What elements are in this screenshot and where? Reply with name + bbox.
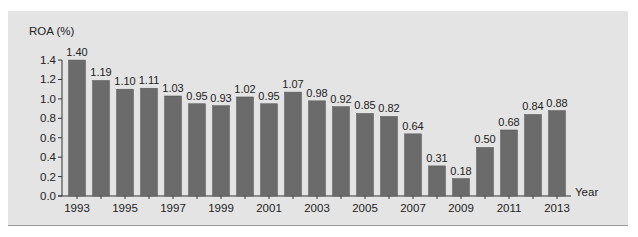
bar-value-label: 0.92	[330, 93, 351, 105]
bar-2008	[429, 166, 446, 196]
y-tick-label: 0.6	[40, 132, 56, 144]
bar-2006	[381, 116, 398, 196]
bar-value-label: 1.10	[114, 75, 135, 87]
bar-value-label: 0.95	[258, 90, 279, 102]
bar-2001	[261, 104, 278, 196]
roa-bar-chart: 0.00.20.40.60.81.01.21.41.401.191.101.11…	[0, 0, 638, 237]
x-tick-label: 1997	[160, 202, 186, 214]
bar-1999	[213, 106, 230, 196]
y-tick-label: 1.0	[40, 93, 56, 105]
bar-value-label: 0.95	[186, 90, 207, 102]
y-tick-label: 0.8	[40, 112, 56, 124]
bar-value-label: 1.02	[234, 83, 255, 95]
bar-2010	[477, 147, 494, 196]
x-tick-label: 2009	[448, 202, 474, 214]
bar-1996	[141, 88, 158, 196]
x-tick-label: 2013	[544, 202, 570, 214]
bar-1998	[189, 104, 206, 196]
bar-2007	[405, 134, 422, 196]
y-tick-label: 1.2	[40, 73, 56, 85]
bar-value-label: 0.31	[426, 152, 447, 164]
bar-2005	[357, 113, 374, 196]
bar-value-label: 1.11	[139, 74, 160, 86]
y-tick-label: 0.4	[40, 151, 57, 163]
bar-2000	[237, 97, 254, 196]
x-tick-label: 2005	[352, 202, 378, 214]
bar-value-label: 1.07	[282, 78, 303, 90]
bar-value-label: 0.50	[474, 133, 495, 145]
bar-value-label: 1.03	[162, 82, 183, 94]
bar-value-label: 0.82	[378, 102, 399, 114]
bar-value-label: 0.68	[498, 116, 519, 128]
bar-value-label: 0.98	[306, 87, 327, 99]
chart-plot-area: 0.00.20.40.60.81.01.21.41.401.191.101.11…	[0, 0, 638, 237]
x-tick-label: 1993	[64, 202, 90, 214]
bar-value-label: 0.93	[210, 92, 231, 104]
x-tick-label: 2007	[400, 202, 426, 214]
bar-1995	[117, 89, 134, 196]
bar-2012	[525, 114, 542, 196]
bar-1993	[69, 60, 86, 196]
bar-2013	[549, 111, 566, 196]
bar-1997	[165, 96, 182, 196]
y-axis-label: ROA (%)	[29, 25, 74, 37]
y-tick-label: 0.0	[40, 190, 56, 202]
bar-value-label: 0.18	[450, 165, 471, 177]
x-tick-label: 1995	[112, 202, 138, 214]
bar-2004	[333, 107, 350, 196]
bar-2003	[309, 101, 326, 196]
bar-1994	[93, 80, 110, 196]
x-tick-label: 1999	[208, 202, 234, 214]
bar-value-label: 0.88	[546, 97, 567, 109]
bar-value-label: 1.40	[66, 46, 87, 58]
x-tick-label: 2011	[497, 202, 522, 214]
bar-2002	[285, 92, 302, 196]
bar-value-label: 0.84	[522, 100, 543, 112]
x-axis-label: Year	[575, 186, 598, 198]
bar-value-label: 0.85	[354, 99, 375, 111]
bar-2009	[453, 179, 470, 196]
x-tick-label: 2003	[304, 202, 330, 214]
y-tick-label: 0.2	[40, 171, 56, 183]
x-tick-label: 2001	[256, 202, 282, 214]
bar-2011	[501, 130, 518, 196]
y-tick-label: 1.4	[40, 54, 57, 66]
bar-value-label: 0.64	[402, 120, 423, 132]
bar-value-label: 1.19	[90, 66, 111, 78]
